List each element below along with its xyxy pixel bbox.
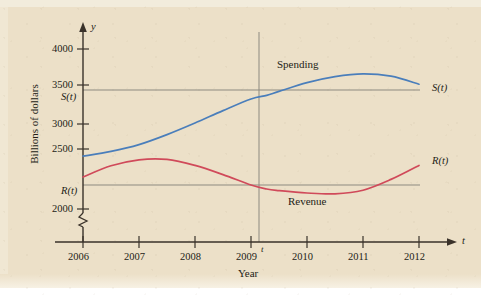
curve-revenue [83, 159, 419, 194]
x-tick-label-2010: 2010 [292, 252, 313, 263]
x-tick-label-2006: 2006 [68, 252, 89, 263]
x-tick-label-2008: 2008 [180, 252, 201, 263]
y-axis-title: Billions of dollars [28, 69, 40, 179]
axis-break-zigzag-icon [79, 213, 87, 227]
x-tick-label-2012: 2012 [404, 252, 425, 263]
y-tick-label-4000: 4000 [52, 44, 73, 55]
x-tick-label-2011: 2011 [348, 252, 369, 263]
y-tick-label-3500: 3500 [52, 80, 73, 91]
x-axis-t-marker-label: t [261, 245, 264, 254]
y-guide-label-s-of-t: S(t) [61, 92, 76, 103]
x-tick-label-2009: 2009 [236, 252, 257, 263]
figure-container: 2000 2500 3000 3500 4000 S(t) R(t) 2006 … [0, 0, 481, 298]
y-axis-variable-label: y [91, 22, 96, 33]
x-axis-title: Year [238, 268, 258, 279]
curve-spending [83, 74, 419, 156]
x-tick-label-2007: 2007 [124, 252, 145, 263]
curve-end-label-spending: S(t) [432, 83, 447, 94]
series-label-revenue: Revenue [288, 196, 326, 207]
y-tick-label-3000: 3000 [52, 119, 73, 130]
y-tick-label-2000: 2000 [52, 204, 73, 215]
y-tick-label-2500: 2500 [52, 144, 73, 155]
series-label-spending: Spending [277, 59, 319, 70]
y-guide-label-r-of-t: R(t) [61, 186, 77, 197]
x-axis-arrowhead-icon [447, 238, 457, 246]
x-axis-variable-label: t [462, 236, 465, 247]
curve-end-label-revenue: R(t) [432, 156, 448, 167]
y-axis-arrowhead-icon [79, 22, 87, 32]
